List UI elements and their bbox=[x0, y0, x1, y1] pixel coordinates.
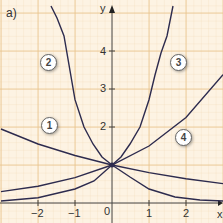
x-tick-label: 1 bbox=[146, 207, 152, 219]
chart: a) y x −2 −1 0 1 2 2 3 4 1 2 3 4 bbox=[0, 0, 223, 223]
y-tick-label: 2 bbox=[100, 120, 106, 132]
x-tick-label: 0 bbox=[104, 205, 110, 217]
plot-area bbox=[0, 0, 223, 223]
x-tick-label: −2 bbox=[31, 207, 44, 219]
curve-3-label: 3 bbox=[170, 54, 187, 71]
curve-4-label: 4 bbox=[175, 129, 192, 146]
curve-1-label: 1 bbox=[41, 117, 58, 134]
y-tick-label: 4 bbox=[100, 45, 106, 57]
x-tick-label: 2 bbox=[183, 207, 189, 219]
curve-2-label: 2 bbox=[40, 54, 57, 71]
panel-label: a) bbox=[6, 6, 17, 20]
y-tick-label: 3 bbox=[100, 82, 106, 94]
x-axis-label: x bbox=[217, 208, 223, 220]
intersection-point bbox=[110, 163, 115, 168]
x-tick-label: −1 bbox=[68, 207, 81, 219]
y-axis-label: y bbox=[100, 2, 106, 14]
